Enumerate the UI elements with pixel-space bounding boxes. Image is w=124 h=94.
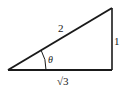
adjacent-label: √3 [57,76,69,87]
hypotenuse-side [8,8,112,70]
angle-arc [41,50,46,70]
triangle-diagram: 2 1 √3 θ [0,0,124,94]
angle-label: θ [48,54,53,65]
opposite-label: 1 [114,36,120,47]
hypotenuse-label: 2 [58,23,64,34]
